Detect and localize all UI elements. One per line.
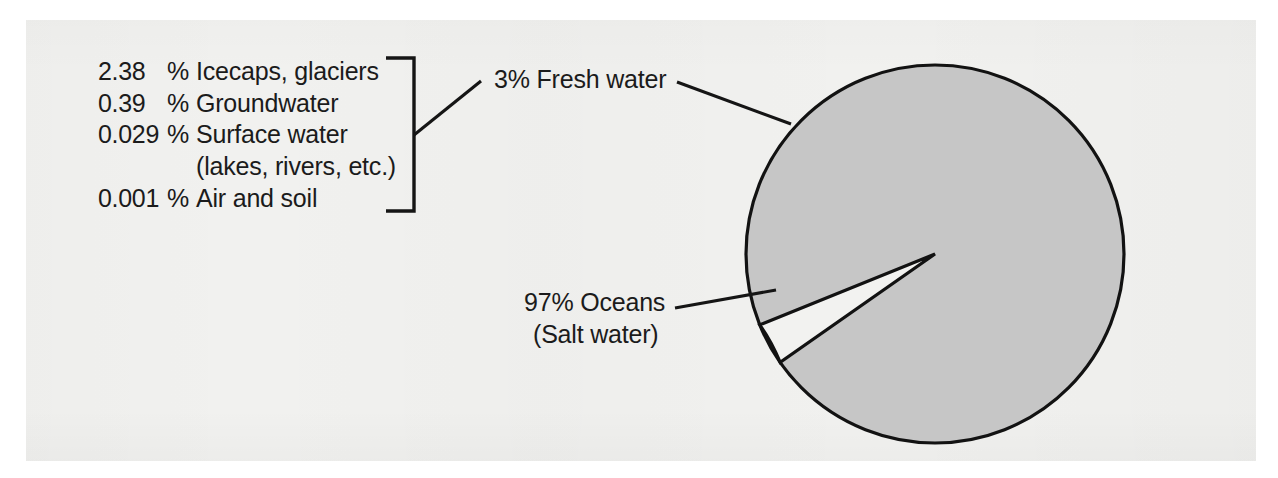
leader-line-fresh-water-to-slice	[677, 82, 791, 124]
legend-percent-symbol-1: %	[167, 89, 189, 117]
legend-percent-4: 0.001	[98, 184, 159, 212]
legend-percent-symbol-2: %	[167, 120, 189, 148]
legend-label-4: Air and soil	[196, 184, 317, 212]
legend-percent-symbol-0: %	[167, 57, 189, 85]
callout-fresh-water: 3% Fresh water	[494, 65, 666, 93]
legend-label-2: Surface water	[196, 120, 348, 148]
legend-percent-0: 2.38	[98, 57, 145, 85]
legend-percent-symbol-4: %	[167, 184, 189, 212]
callout-oceans-line1: 97% Oceans	[524, 288, 665, 316]
legend-breakdown: 2.38 % Icecaps, glaciers 0.39 % Groundwa…	[98, 57, 396, 212]
pie-chart	[746, 65, 1124, 443]
water-distribution-pie-figure: 2.38 % Icecaps, glaciers 0.39 % Groundwa…	[0, 0, 1278, 478]
legend-grouping-bracket	[386, 58, 414, 211]
leader-line-bracket-to-fresh-water	[414, 81, 481, 135]
legend-label-0: Icecaps, glaciers	[196, 57, 379, 85]
legend-percent-2: 0.029	[98, 120, 159, 148]
figure-page: 2.38 % Icecaps, glaciers 0.39 % Groundwa…	[0, 0, 1278, 478]
callout-oceans-line2: (Salt water)	[533, 320, 658, 348]
legend-label-3: (lakes, rivers, etc.)	[196, 152, 396, 180]
legend-percent-1: 0.39	[98, 89, 145, 117]
legend-label-1: Groundwater	[196, 89, 338, 117]
